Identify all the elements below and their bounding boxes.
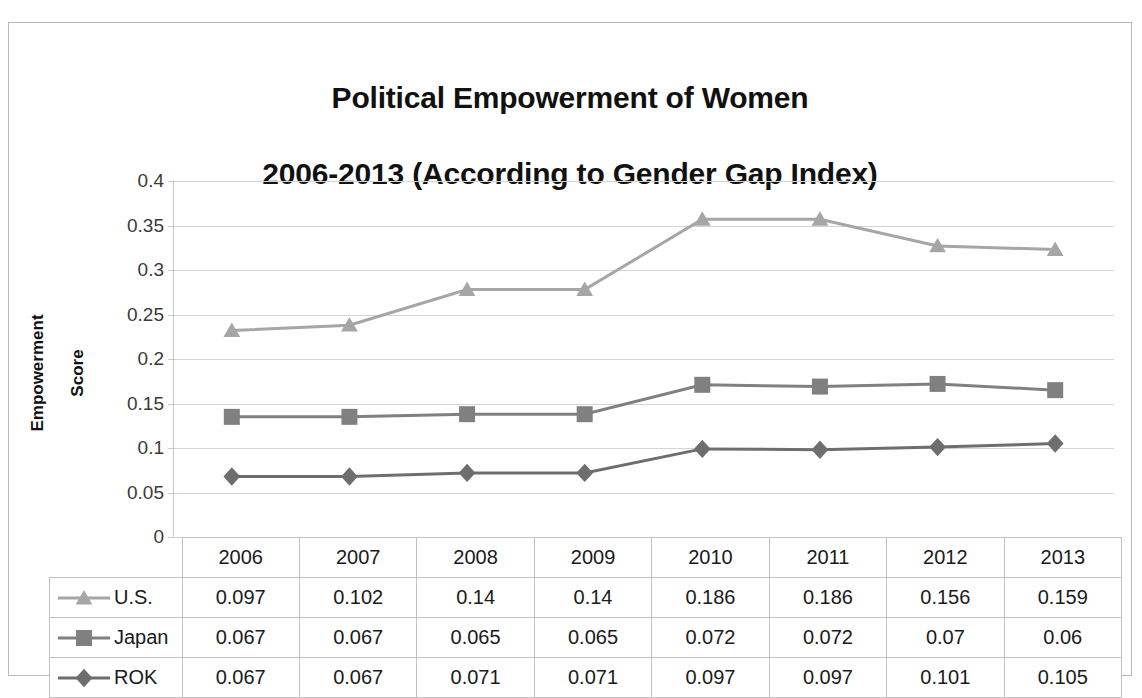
table-row: U.S.0.0970.1020.140.140.1860.1860.1560.1… — [50, 578, 1122, 618]
table-cell-value: 0.186 — [652, 578, 769, 618]
table-cell-value: 0.071 — [417, 658, 534, 698]
table-cell-value: 0.105 — [1004, 658, 1121, 698]
table-cell-value: 0.156 — [887, 578, 1004, 618]
table-cell-value: 0.14 — [417, 578, 534, 618]
table-cell-value: 0.159 — [1004, 578, 1121, 618]
data-point-square — [812, 379, 828, 395]
table-header-year: 2012 — [887, 538, 1004, 578]
legend-cell-rok: ROK — [50, 658, 183, 698]
legend-header-cell — [50, 538, 183, 578]
table-cell-value: 0.067 — [182, 658, 299, 698]
data-point-diamond — [223, 467, 240, 485]
table-row: ROK0.0670.0670.0710.0710.0970.0970.1010.… — [50, 658, 1122, 698]
table-cell-value: 0.06 — [1004, 618, 1121, 658]
data-point-square — [694, 377, 710, 393]
table-cell-value: 0.186 — [769, 578, 886, 618]
y-axis-title: Empowerment Score — [8, 288, 108, 458]
y-axis-title-line-1: Empowerment — [28, 288, 48, 458]
table-cell-value: 0.14 — [534, 578, 651, 618]
table-header-year: 2013 — [1004, 538, 1121, 578]
table-cell-value: 0.067 — [299, 618, 416, 658]
table-header-year: 2006 — [182, 538, 299, 578]
legend-cell-japan: Japan — [50, 618, 183, 658]
data-point-square — [459, 406, 475, 422]
y-axis-title-line-2: Score — [68, 288, 88, 458]
data-point-diamond — [694, 440, 711, 458]
y-tick-label: 0.3 — [138, 259, 164, 281]
chart-title-line-1: Political Empowerment of Women — [9, 79, 1131, 117]
y-tick-label: 0.35 — [127, 215, 164, 237]
table-cell-value: 0.071 — [534, 658, 651, 698]
table-header-year: 2007 — [299, 538, 416, 578]
legend-cell-us: U.S. — [50, 578, 183, 618]
legend-marker-diamond-icon — [56, 667, 112, 689]
legend-label: Japan — [114, 626, 169, 649]
data-table: 20062007200820092010201120122013 U.S.0.0… — [49, 537, 1122, 698]
data-point-diamond — [576, 464, 593, 482]
data-point-diamond — [459, 464, 476, 482]
legend-marker-square-icon — [56, 627, 112, 649]
y-tick-label: 0.1 — [138, 437, 164, 459]
table-cell-value: 0.072 — [652, 618, 769, 658]
plot-area: 0.40.350.30.250.20.150.10.050 — [173, 181, 1114, 537]
series-layer — [173, 181, 1114, 537]
table-cell-value: 0.097 — [769, 658, 886, 698]
data-point-square — [577, 406, 593, 422]
table-header-year: 2008 — [417, 538, 534, 578]
chart-frame: Political Empowerment of Women 2006-2013… — [8, 22, 1132, 676]
table-cell-value: 0.102 — [299, 578, 416, 618]
table-cell-value: 0.065 — [417, 618, 534, 658]
legend-marker-triangle-icon — [56, 587, 112, 609]
table-header-year: 2009 — [534, 538, 651, 578]
legend-label: ROK — [114, 666, 157, 689]
data-point-diamond — [812, 441, 829, 459]
table-header-year: 2010 — [652, 538, 769, 578]
table-cell-value: 0.097 — [652, 658, 769, 698]
y-tick-label: 0.2 — [138, 348, 164, 370]
table-cell-value: 0.067 — [182, 618, 299, 658]
y-tick-label: 0.4 — [138, 170, 164, 192]
table-cell-value: 0.097 — [182, 578, 299, 618]
legend-label: U.S. — [114, 586, 153, 609]
table-header-year: 2011 — [769, 538, 886, 578]
table-header-row: 20062007200820092010201120122013 — [50, 538, 1122, 578]
data-point-square — [930, 376, 946, 392]
table-cell-value: 0.07 — [887, 618, 1004, 658]
table-body: U.S.0.0970.1020.140.140.1860.1860.1560.1… — [50, 578, 1122, 698]
series-line-us — [232, 219, 1055, 330]
data-point-diamond — [341, 467, 358, 485]
table-cell-value: 0.067 — [299, 658, 416, 698]
y-tick-label: 0.15 — [127, 393, 164, 415]
y-tick-label: 0.05 — [127, 482, 164, 504]
data-point-diamond — [929, 438, 946, 456]
data-point-square — [224, 409, 240, 425]
table-cell-value: 0.072 — [769, 618, 886, 658]
table-row: Japan0.0670.0670.0650.0650.0720.0720.070… — [50, 618, 1122, 658]
y-tick-label: 0.25 — [127, 304, 164, 326]
data-point-square — [1047, 382, 1063, 398]
table-cell-value: 0.065 — [534, 618, 651, 658]
table-cell-value: 0.101 — [887, 658, 1004, 698]
data-point-square — [341, 409, 357, 425]
data-point-diamond — [1047, 434, 1064, 452]
